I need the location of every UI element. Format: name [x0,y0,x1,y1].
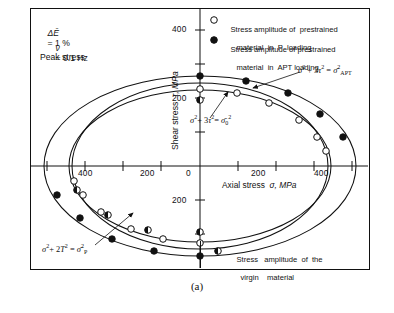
y-axis-title: Shear stress τ, MPa [170,71,180,150]
annotation-apt: σ2 + 3τ2 = σ̄2APT [298,64,352,76]
figure-container: ΔĒ = 1 % ν = 0.1 Hz Peak stress Stress a… [0,0,394,313]
x-tick-label-neg400: 400 [78,168,93,178]
x-axis-title: Axial stress σ, MPa [222,180,296,190]
x-tick-label-200: 200 [251,168,266,178]
x-tick-label-400: 400 [314,168,329,178]
x-tick-label-origin: 0 [186,168,191,178]
x-tick-label-neg200: 200 [140,168,155,178]
figure-caption: (a) [0,280,394,292]
annotation-p: σ2+ 2T2 = σ̄2P [42,243,87,255]
y-tick-label-neg200: 200 [172,195,187,205]
y-tick-label-400: 400 [172,24,187,34]
legend-marker-half [0,0,394,313]
annotation-virgin: σ2+ 3τ2= σ̄02 [190,114,231,126]
